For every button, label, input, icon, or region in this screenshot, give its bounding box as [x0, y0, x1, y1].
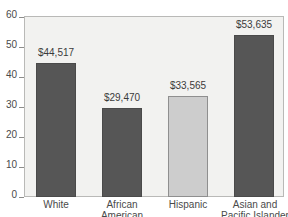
- x-axis-label-line: Pacific Islander: [210, 210, 288, 217]
- y-axis-tick-label: 40: [6, 70, 17, 80]
- bar-value-label: $44,517: [38, 47, 74, 58]
- x-axis-label-line: Hispanic: [169, 199, 207, 210]
- bars-layer: $44,517 $29,470 $33,565 $53,635: [24, 16, 284, 197]
- bar-african-american[interactable]: [102, 108, 142, 197]
- y-axis-tick-label: 60: [6, 10, 17, 20]
- bar-slot-hispanic: $33,565: [168, 16, 208, 197]
- bar-slot-african-american: $29,470: [102, 16, 142, 197]
- bar-slot-white: $44,517: [36, 16, 76, 197]
- bar-chart: 60 50 40 30 20 10 0 $44,517: [0, 0, 288, 217]
- y-axis: 60 50 40 30 20 10 0: [0, 0, 24, 217]
- y-axis-tick-label: 30: [6, 100, 17, 110]
- y-axis-tick-label: 50: [6, 40, 17, 50]
- x-axis-label-line: American: [82, 210, 162, 217]
- x-axis-label-asian-pacific-islander: Asian and Pacific Islander: [210, 199, 288, 217]
- x-axis-labels: White African American Hispanic Asian an…: [24, 199, 284, 217]
- bar-white[interactable]: [36, 63, 76, 197]
- bar-hispanic[interactable]: [168, 96, 208, 197]
- bar-asian-pacific-islander[interactable]: [234, 35, 274, 197]
- bar-value-label: $33,565: [170, 80, 206, 91]
- y-axis-tick-mark: [19, 197, 24, 198]
- bar-slot-asian-pacific-islander: $53,635: [234, 16, 274, 197]
- y-axis-tick-label: 10: [6, 160, 17, 170]
- x-axis-label-line: Asian and: [233, 199, 277, 210]
- bar-value-label: $53,635: [236, 19, 272, 30]
- bar-value-label: $29,470: [104, 92, 140, 103]
- x-axis-label-line: African: [106, 199, 137, 210]
- x-axis-label-line: White: [43, 199, 69, 210]
- y-axis-tick-label: 20: [6, 130, 17, 140]
